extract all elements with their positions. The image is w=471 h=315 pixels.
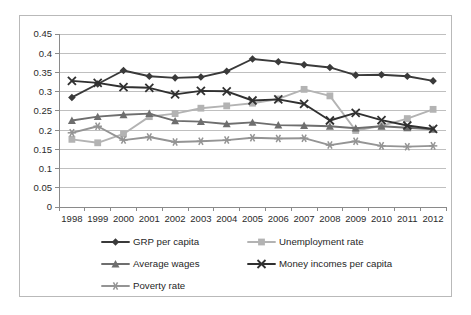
y-axis-tick-label: 0.4 (39, 48, 52, 59)
data-point-marker (300, 61, 308, 69)
data-point-marker (352, 138, 360, 145)
y-axis-tick-label: 0.05 (34, 182, 53, 193)
legend-group: GRP per capitaUnemployment rateAverage w… (102, 236, 393, 291)
y-axis-tick-label: 0 (47, 201, 52, 212)
y-axis-labels-group: 00.050.10.150.20.250.30.350.40.45 (34, 28, 53, 212)
legend-label: Poverty rate (133, 280, 185, 291)
x-axis-tick-label: 2004 (216, 213, 237, 224)
legend-item-poverty-rate[interactable]: Poverty rate (102, 280, 185, 291)
x-axis-tick-label: 2002 (165, 213, 186, 224)
data-point-marker (404, 115, 411, 122)
x-axis-tick-label: 1999 (87, 213, 108, 224)
data-point-marker (326, 141, 334, 148)
data-point-marker (146, 72, 154, 80)
data-point-marker (197, 138, 205, 145)
data-point-marker (223, 102, 230, 109)
x-axis-labels-group: 1998199920002001200220032004200520062007… (61, 213, 443, 224)
x-axis-tick-label: 2003 (190, 213, 211, 224)
x-axis-tick-label: 2012 (423, 213, 444, 224)
y-axis-tick-label: 0.15 (34, 144, 53, 155)
data-point-marker (120, 131, 127, 138)
data-point-marker (145, 133, 153, 140)
legend-item-average-wages[interactable]: Average wages (102, 258, 200, 269)
data-point-marker (429, 77, 437, 85)
data-point-marker (326, 64, 334, 72)
chart-figure: 00.050.10.150.20.250.30.350.40.45 199819… (19, 15, 452, 297)
data-point-marker (171, 138, 179, 145)
data-point-marker (429, 142, 437, 149)
y-axis-tick-label: 0.1 (39, 163, 52, 174)
series-group (68, 55, 438, 150)
x-axis-tick-label: 2011 (397, 213, 417, 224)
x-axis-tick-label: 2007 (294, 213, 315, 224)
x-axis-tick-label: 2008 (319, 213, 340, 224)
data-point-marker (120, 67, 128, 75)
data-point-marker (94, 139, 101, 146)
legend-label: GRP per capita (133, 236, 200, 247)
x-axis-tick-label: 2001 (139, 213, 160, 224)
x-axis-tick-label: 2000 (113, 213, 134, 224)
data-point-marker (377, 142, 385, 149)
x-axis-tick-label: 2010 (371, 213, 392, 224)
data-point-marker (223, 136, 231, 143)
data-point-marker (68, 94, 76, 102)
series-grp-per-capita (68, 55, 437, 101)
legend-marker-icon (112, 238, 120, 246)
legend-item-grp-per-capita[interactable]: GRP per capita (102, 236, 200, 247)
data-point-marker (223, 67, 231, 75)
legend-item-unemployment-rate[interactable]: Unemployment rate (248, 236, 364, 247)
legend-label: Money incomes per capita (279, 258, 393, 269)
x-axis-tick-label: 1998 (61, 213, 82, 224)
y-axis-tick-label: 0.3 (39, 86, 52, 97)
data-point-marker (274, 135, 282, 142)
data-point-marker (197, 73, 205, 81)
data-point-marker (198, 105, 205, 112)
x-axis-tick-label: 2006 (268, 213, 289, 224)
data-point-marker (69, 136, 76, 143)
x-axis-tick-label: 2005 (242, 213, 263, 224)
data-point-marker (249, 55, 257, 63)
data-point-marker (430, 106, 437, 113)
legend-marker-icon (111, 282, 119, 289)
legend-label: Average wages (133, 258, 200, 269)
y-axis-tick-label: 0.35 (34, 67, 53, 78)
legend-marker-icon (258, 239, 265, 246)
data-point-marker (248, 134, 256, 141)
y-axis-tick-label: 0.25 (34, 105, 53, 116)
line-chart-svg: 00.050.10.150.20.250.30.350.40.45 199819… (20, 16, 451, 296)
data-point-marker (172, 110, 179, 117)
data-point-marker (404, 72, 412, 80)
data-point-marker (171, 74, 179, 82)
legend-label: Unemployment rate (279, 236, 364, 247)
x-axis-tick-label: 2009 (345, 213, 366, 224)
data-point-marker (300, 135, 308, 142)
data-point-marker (275, 58, 283, 66)
chart-canvas: 00.050.10.150.20.250.30.350.40.45 199819… (20, 16, 451, 296)
y-axis-tick-label: 0.45 (34, 28, 53, 39)
data-point-marker (327, 92, 334, 99)
data-point-marker (301, 86, 308, 93)
legend-item-money-incomes-per-capita[interactable]: Money incomes per capita (248, 258, 393, 269)
y-axis-tick-label: 0.2 (39, 125, 52, 136)
